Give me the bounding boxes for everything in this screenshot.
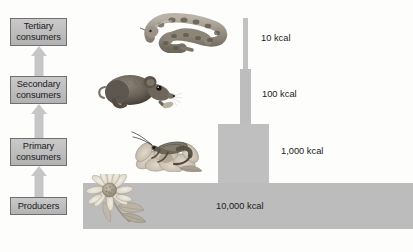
trophic-box-producers: Producers: [10, 197, 67, 215]
energy-bar-primary-consumers: [218, 124, 269, 183]
arrow-up-icon-primary-to-secondary: [24, 104, 53, 138]
trophic-label-line1: Producers: [18, 201, 59, 212]
flower-illustration: [86, 174, 164, 227]
energy-bar-tertiary-consumers: [243, 18, 248, 69]
trophic-box-secondary: Secondary consumers: [10, 76, 67, 104]
trophic-label-line2: consumers: [16, 152, 61, 163]
energy-value-primary: 1,000 kcal: [281, 146, 323, 156]
energy-value-secondary: 100 kcal: [262, 89, 297, 99]
arrow-up-icon-secondary-to-tertiary: [24, 46, 53, 76]
energy-value-tertiary: 10 kcal: [261, 33, 290, 43]
grasshopper-illustration: [122, 124, 210, 172]
trophic-label-line2: consumers: [16, 90, 61, 101]
mouse-illustration: [96, 62, 182, 114]
energy-pyramid-diagram: Tertiary consumers Secondary consumers P…: [0, 0, 413, 252]
trophic-box-tertiary: Tertiary consumers: [10, 18, 67, 46]
trophic-label-line2: consumers: [16, 32, 61, 43]
trophic-label-line1: Primary: [23, 141, 54, 152]
trophic-label-line1: Tertiary: [24, 21, 54, 32]
trophic-label-line1: Secondary: [17, 79, 61, 90]
snake-illustration: [138, 8, 228, 53]
energy-bar-secondary-consumers: [240, 69, 251, 124]
trophic-box-primary: Primary consumers: [10, 138, 67, 166]
arrow-up-icon-producers-to-primary: [24, 166, 53, 197]
energy-value-producers: 10,000 kcal: [216, 201, 264, 211]
